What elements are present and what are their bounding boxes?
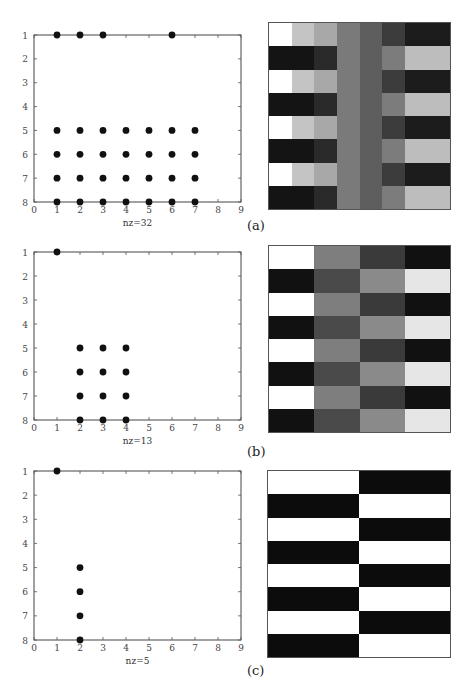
heatmap-cell: [337, 139, 360, 162]
x-tick-label: 3: [100, 423, 106, 433]
y-tick-label: 3: [22, 296, 28, 306]
y-tick-label: 4: [22, 320, 28, 330]
nonzero-marker: [100, 199, 107, 206]
y-tick-label: 2: [22, 491, 28, 501]
heatmap-cell: [427, 163, 450, 186]
x-tick-label: 5: [146, 423, 152, 433]
y-tick-label: 4: [22, 102, 28, 112]
x-tick-label: 9: [238, 205, 244, 215]
heatmap-cell: [405, 339, 450, 362]
nonzero-marker: [54, 32, 61, 39]
x-tick-label: 3: [100, 205, 106, 215]
heatmap-cell: [268, 634, 359, 657]
nonzero-marker: [146, 151, 153, 158]
x-tick-label: 7: [192, 643, 198, 653]
heatmap-cell: [360, 246, 405, 269]
x-tick-label: 0: [31, 423, 37, 433]
heatmap-cell: [269, 246, 314, 269]
y-tick-label: 7: [22, 611, 28, 621]
nonzero-marker: [77, 199, 84, 206]
heatmap-cell: [269, 386, 314, 409]
x-tick-label: 7: [192, 205, 198, 215]
nonzero-marker: [54, 249, 61, 256]
heatmap-cell: [405, 269, 450, 292]
heatmap-cell: [314, 409, 359, 432]
x-tick-label: 9: [238, 423, 244, 433]
nonzero-marker: [169, 127, 176, 134]
nonzero-marker: [123, 127, 130, 134]
nonzero-marker: [77, 345, 84, 352]
nonzero-marker: [77, 151, 84, 158]
heatmap-cell: [405, 46, 428, 69]
spy-plot-a: 012345678912345678nz=32: [4, 25, 261, 232]
heatmap-cell: [405, 293, 450, 316]
heatmap-cell: [314, 269, 359, 292]
heatmap-cell: [269, 93, 292, 116]
x-tick-label: 8: [215, 423, 221, 433]
heatmap-cell: [360, 186, 383, 209]
heatmap-cell: [314, 139, 337, 162]
y-tick-label: 2: [22, 272, 28, 282]
heatmap-cell: [405, 362, 450, 385]
heatmap-cell: [314, 339, 359, 362]
y-tick-label: 7: [22, 392, 28, 402]
heatmap-cell: [359, 471, 450, 494]
heatmap-cell: [360, 339, 405, 362]
nonzero-marker: [100, 417, 107, 424]
heatmap-cell: [359, 611, 450, 634]
heatmap-cell: [292, 163, 315, 186]
heatmap-cell: [405, 23, 428, 46]
heatmap-cell: [269, 362, 314, 385]
heatmap-cell: [427, 116, 450, 139]
heatmap-cell: [269, 46, 292, 69]
heatmap-cell: [405, 163, 428, 186]
nonzero-marker: [54, 175, 61, 182]
heatmap-cell: [269, 186, 292, 209]
heatmap-cell: [269, 23, 292, 46]
heatmap-cell: [314, 116, 337, 139]
nonzero-marker: [54, 468, 61, 475]
x-tick-label: 1: [54, 205, 60, 215]
heatmap-cell: [360, 139, 383, 162]
heatmap-cell: [292, 93, 315, 116]
heatmap-cell: [292, 139, 315, 162]
nonzero-marker: [100, 151, 107, 158]
heatmap-cell: [292, 186, 315, 209]
y-tick-label: 8: [22, 636, 28, 646]
y-tick-label: 2: [22, 54, 28, 64]
nonzero-marker: [54, 127, 61, 134]
heatmap-cell: [268, 518, 359, 541]
nonzero-marker: [77, 564, 84, 571]
heatmap-cell: [337, 163, 360, 186]
nonzero-marker: [123, 345, 130, 352]
y-tick-label: 5: [22, 563, 28, 573]
heatmap-cell: [427, 23, 450, 46]
heatmap-cell: [268, 611, 359, 634]
heatmap-cell: [359, 494, 450, 517]
heatmap-cell: [427, 139, 450, 162]
x-tick-label: 2: [77, 423, 83, 433]
y-tick-label: 1: [22, 31, 28, 41]
nonzero-marker: [192, 175, 199, 182]
x-tick-label: 8: [215, 643, 221, 653]
heatmap-cell: [360, 409, 405, 432]
x-tick-label: 0: [31, 205, 37, 215]
heatmap-cell: [314, 23, 337, 46]
heatmap-cell: [405, 70, 428, 93]
x-tick-label: 2: [77, 643, 83, 653]
spy-plot-b: 012345678912345678nz=13: [4, 242, 261, 450]
heatmap-cell: [337, 70, 360, 93]
x-tick-label: 1: [54, 643, 60, 653]
heatmap-cell: [359, 541, 450, 564]
y-tick-label: 7: [22, 174, 28, 184]
heatmap-cell: [359, 634, 450, 657]
x-tick-label: 1: [54, 423, 60, 433]
nonzero-marker: [123, 417, 130, 424]
heatmap-cell: [269, 269, 314, 292]
nonzero-marker: [169, 199, 176, 206]
heatmap-cell: [360, 386, 405, 409]
nonzero-marker: [77, 369, 84, 376]
nonzero-marker: [100, 127, 107, 134]
heatmap-cell: [360, 293, 405, 316]
heatmap-cell: [269, 163, 292, 186]
